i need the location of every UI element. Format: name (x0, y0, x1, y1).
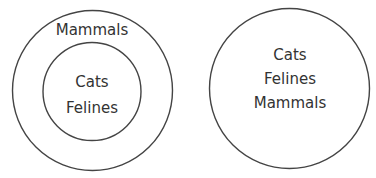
single-diagram: Cats Felines Mammals (210, 9, 370, 169)
venn-diagrams: Mammals Cats Felines Cats Felines Mammal… (0, 0, 376, 178)
outer-label: Mammals (56, 21, 129, 39)
inner-label-2: Felines (66, 99, 118, 117)
single-label-3: Mammals (254, 94, 327, 112)
nested-diagram: Mammals Cats Felines (13, 11, 173, 171)
inner-label-1: Cats (75, 73, 109, 91)
single-label-1: Cats (273, 46, 307, 64)
inner-circle-cats (43, 43, 141, 141)
single-label-2: Felines (264, 70, 316, 88)
single-circle (210, 9, 370, 169)
